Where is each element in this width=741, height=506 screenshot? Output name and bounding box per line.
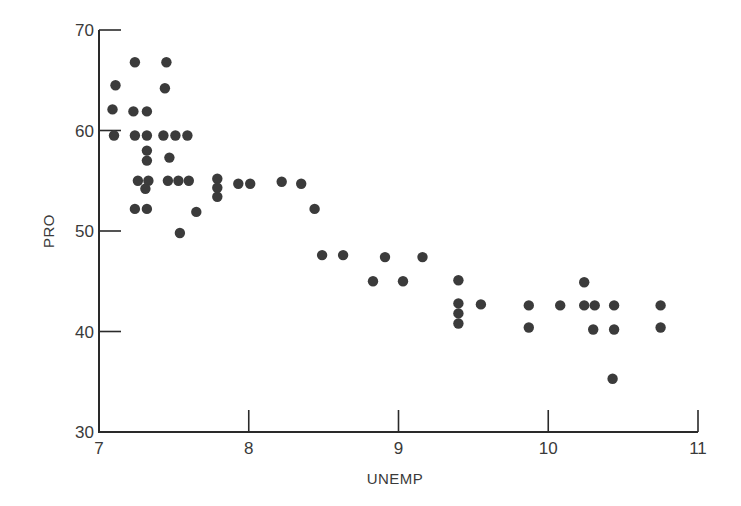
scatter-chart: 30405060707891011 UNEMP PRO: [0, 0, 741, 506]
data-point: [191, 207, 201, 217]
y-tick-label: 30: [75, 423, 94, 442]
x-tick-label: 10: [539, 439, 558, 458]
data-point: [398, 276, 408, 286]
data-point: [182, 130, 192, 140]
data-point: [142, 130, 152, 140]
y-tick-label: 40: [75, 323, 94, 342]
data-point: [476, 299, 486, 309]
data-point: [184, 176, 194, 186]
data-point: [212, 174, 222, 184]
data-point: [164, 152, 174, 162]
data-point: [212, 183, 222, 193]
data-point: [579, 277, 589, 287]
axes: 30405060707891011: [75, 21, 707, 458]
data-point: [317, 250, 327, 260]
y-tick-label: 60: [75, 122, 94, 141]
data-point: [142, 204, 152, 214]
data-point: [655, 322, 665, 332]
data-point: [607, 374, 617, 384]
data-point: [128, 106, 138, 116]
data-point: [212, 192, 222, 202]
data-point: [590, 300, 600, 310]
data-point: [453, 318, 463, 328]
data-point: [130, 57, 140, 67]
data-point: [453, 275, 463, 285]
data-point: [579, 300, 589, 310]
data-point: [175, 228, 185, 238]
data-point: [338, 250, 348, 260]
data-point: [368, 276, 378, 286]
data-point: [163, 176, 173, 186]
data-point: [233, 179, 243, 189]
data-point: [609, 300, 619, 310]
x-axis-title: UNEMP: [367, 470, 424, 487]
data-point: [609, 324, 619, 334]
data-point: [160, 83, 170, 93]
chart-canvas: 30405060707891011 UNEMP PRO: [0, 0, 741, 506]
y-tick-label: 50: [75, 222, 94, 241]
data-point: [110, 80, 120, 90]
y-tick-label: 70: [75, 21, 94, 40]
data-point: [142, 155, 152, 165]
data-point: [380, 252, 390, 262]
data-point: [130, 130, 140, 140]
data-point: [453, 308, 463, 318]
data-point: [161, 57, 171, 67]
data-points: [107, 57, 666, 384]
data-point: [524, 300, 534, 310]
data-point: [140, 184, 150, 194]
axis-lines: [99, 30, 698, 432]
y-axis-title: PRO: [40, 214, 57, 248]
data-point: [655, 300, 665, 310]
data-point: [245, 179, 255, 189]
data-point: [170, 130, 180, 140]
data-point: [453, 298, 463, 308]
data-point: [309, 204, 319, 214]
data-point: [107, 104, 117, 114]
data-point: [158, 130, 168, 140]
x-tick-label: 11: [689, 439, 707, 458]
data-point: [417, 252, 427, 262]
x-tick-label: 9: [394, 439, 403, 458]
data-point: [277, 177, 287, 187]
x-tick-label: 7: [94, 439, 103, 458]
data-point: [130, 204, 140, 214]
data-point: [588, 324, 598, 334]
data-point: [296, 179, 306, 189]
data-point: [109, 130, 119, 140]
data-point: [173, 176, 183, 186]
data-point: [524, 322, 534, 332]
data-point: [133, 176, 143, 186]
data-point: [142, 106, 152, 116]
x-tick-label: 8: [244, 439, 253, 458]
data-point: [142, 145, 152, 155]
data-point: [555, 300, 565, 310]
